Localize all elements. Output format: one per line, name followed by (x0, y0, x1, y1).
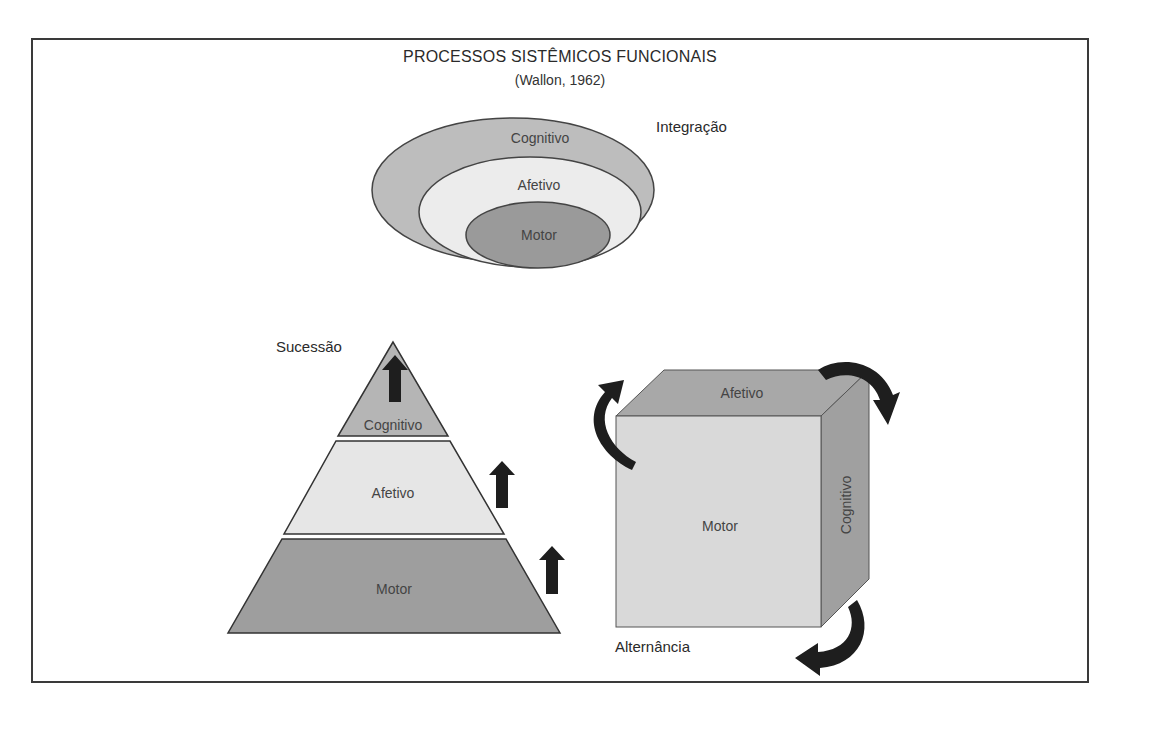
integration-label: Integração (656, 118, 727, 135)
cube-label-afetivo: Afetivo (721, 385, 764, 401)
pyramid-label-cognitivo: Cognitivo (364, 417, 422, 433)
diagram-canvas (0, 0, 1153, 730)
alternation-label: Alternância (615, 638, 690, 655)
arrow-up-icon (489, 461, 515, 508)
ellipse-label-motor: Motor (521, 227, 557, 243)
succession-label: Sucessão (276, 338, 342, 355)
cube-label-motor: Motor (702, 518, 738, 534)
arrow-up-icon (539, 546, 565, 594)
alternation-cube (594, 362, 900, 676)
pyramid-label-motor: Motor (376, 581, 412, 597)
ellipse-label-cognitivo: Cognitivo (511, 130, 569, 146)
pyramid-label-afetivo: Afetivo (372, 485, 415, 501)
ellipse-label-afetivo: Afetivo (518, 177, 561, 193)
cube-label-cognitivo: Cognitivo (838, 476, 854, 534)
